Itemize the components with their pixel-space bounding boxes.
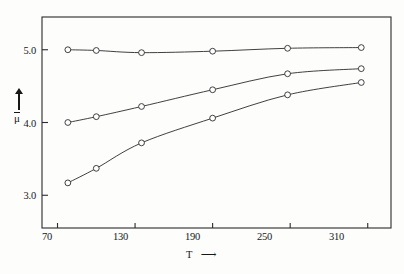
data-point-marker	[285, 92, 291, 98]
chart-figure: 3.0 4.0 5.0 70 130 190 250 310 μ T ⟶	[0, 0, 404, 274]
data-series	[65, 80, 364, 186]
data-point-marker	[93, 114, 99, 120]
series-line-2	[68, 82, 361, 182]
y-axis-arrow-head-icon	[15, 88, 23, 94]
data-point-marker	[358, 80, 364, 86]
y-tick-label-0: 3.0	[6, 190, 36, 201]
x-tick-label-1: 130	[113, 231, 128, 242]
data-point-marker	[65, 47, 71, 53]
data-point-marker	[65, 180, 71, 186]
data-point-marker	[358, 66, 364, 72]
x-axis-arrow-icon: ⟶	[201, 248, 217, 260]
x-axis-title-text: T	[186, 249, 192, 260]
axis-ticks	[42, 50, 368, 228]
data-point-marker	[210, 115, 216, 121]
data-point-marker	[65, 120, 71, 126]
x-tick-label-0: 70	[42, 231, 52, 242]
y-tick-label-2: 5.0	[6, 45, 36, 56]
data-point-marker	[210, 48, 216, 54]
data-series-group	[65, 45, 364, 186]
data-point-marker	[139, 140, 145, 146]
x-tick-label-2: 190	[185, 231, 200, 242]
data-point-marker	[285, 71, 291, 77]
y-tick-label-1: 4.0	[6, 118, 36, 129]
data-point-marker	[139, 104, 145, 110]
series-line-1	[68, 69, 361, 123]
data-point-marker	[93, 48, 99, 54]
y-axis-title: μ	[14, 112, 20, 125]
data-point-marker	[285, 45, 291, 51]
data-series	[65, 45, 364, 56]
data-point-marker	[358, 45, 364, 51]
x-tick-label-4: 310	[329, 231, 344, 242]
x-tick-label-3: 250	[257, 231, 272, 242]
data-point-marker	[139, 50, 145, 56]
data-point-marker	[93, 165, 99, 171]
data-point-marker	[210, 87, 216, 93]
x-axis-title: T ⟶	[186, 248, 217, 261]
y-axis-title-text: μ	[14, 112, 20, 125]
